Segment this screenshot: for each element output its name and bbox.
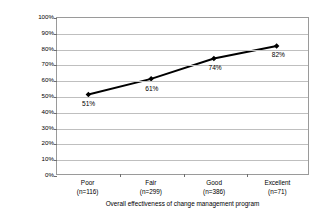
gridline: [57, 50, 308, 51]
data-point-marker[interactable]: [274, 43, 280, 49]
y-axis-tick-label: 20%: [30, 140, 54, 146]
y-axis-tick-label: 100%: [30, 14, 54, 20]
x-axis-tick-mark: [120, 174, 121, 177]
gridline: [57, 113, 308, 114]
y-axis-tick-label: 30%: [30, 124, 54, 130]
y-axis-tick-mark: [54, 97, 57, 98]
x-axis-category-label: Poor(n=116): [77, 178, 99, 196]
x-axis-title: Overall effectiveness of change manageme…: [56, 200, 309, 208]
x-axis-category-label: Good(n=386): [203, 178, 225, 196]
data-point-label: 51%: [82, 100, 95, 107]
y-axis-title: Percent of respondents that were on or u…: [6, 0, 28, 39]
y-axis-tick-label: 0%: [30, 172, 54, 178]
y-axis-tick-mark: [54, 18, 57, 19]
y-axis-tick-label: 90%: [30, 30, 54, 36]
gridline: [57, 97, 308, 98]
x-axis-tick-labels: Poor(n=116)Fair(n=299)Good(n=386)Excelle…: [56, 178, 309, 198]
y-axis-tick-label: 60%: [30, 77, 54, 83]
category-count: (n=386): [203, 187, 225, 196]
gridline: [57, 81, 308, 82]
y-axis-tick-mark: [54, 65, 57, 66]
x-axis-tick-mark: [247, 174, 248, 177]
gridline: [57, 129, 308, 130]
x-axis-tick-mark: [184, 174, 185, 177]
y-axis-tick-mark: [54, 34, 57, 35]
plot-area: 51%61%74%82%: [56, 17, 309, 175]
category-name: Good: [203, 178, 225, 187]
chart-container: Percent of respondents that were on or u…: [0, 0, 322, 219]
y-axis-tick-label: 10%: [30, 156, 54, 162]
data-point-label: 61%: [145, 85, 158, 92]
y-axis-tick-label: 80%: [30, 45, 54, 51]
gridline: [57, 144, 308, 145]
category-count: (n=71): [264, 187, 290, 196]
y-axis-tick-labels: 0%10%20%30%40%50%60%70%80%90%100%: [30, 17, 54, 175]
category-count: (n=299): [140, 187, 162, 196]
y-axis-tick-mark: [54, 81, 57, 82]
y-axis-tick-mark: [54, 176, 57, 177]
category-name: Excellent: [264, 178, 290, 187]
category-count: (n=116): [77, 187, 99, 196]
data-point-label: 74%: [209, 64, 222, 71]
series-line: [57, 18, 308, 174]
category-name: Fair: [140, 178, 162, 187]
x-axis-category-label: Excellent(n=71): [264, 178, 290, 196]
y-axis-tick-mark: [54, 113, 57, 114]
gridline: [57, 160, 308, 161]
data-line: [88, 46, 276, 94]
gridline: [57, 34, 308, 35]
y-axis-tick-label: 50%: [30, 93, 54, 99]
data-point-marker[interactable]: [211, 56, 217, 62]
y-axis-tick-label: 40%: [30, 109, 54, 115]
data-point-label: 82%: [272, 51, 285, 58]
y-axis-tick-mark: [54, 144, 57, 145]
y-axis-tick-mark: [54, 160, 57, 161]
y-axis-tick-mark: [54, 129, 57, 130]
x-axis-category-label: Fair(n=299): [140, 178, 162, 196]
gridline: [57, 65, 308, 66]
category-name: Poor: [77, 178, 99, 187]
y-axis-tick-mark: [54, 50, 57, 51]
y-axis-tick-label: 70%: [30, 61, 54, 67]
